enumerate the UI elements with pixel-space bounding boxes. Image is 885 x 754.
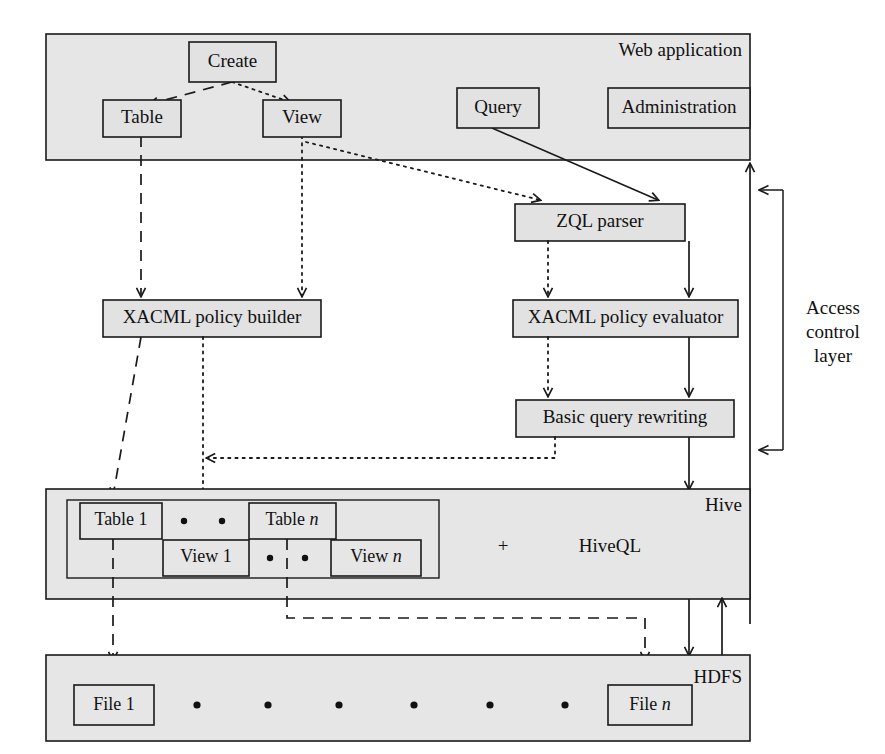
node-file-1[interactable]: File 1	[74, 685, 154, 725]
create-label: Create	[208, 50, 258, 71]
ellipsis-dot	[219, 518, 225, 524]
file-n-prefix: File	[629, 694, 662, 714]
file-n-suffix: n	[662, 694, 671, 714]
view-n-label: View n	[350, 546, 401, 566]
access-control-layer-line-2: control	[806, 321, 860, 342]
ellipsis-dot	[561, 701, 568, 708]
node-view-n[interactable]: View n	[331, 540, 421, 576]
xacml-policy-builder-label: XACML policy builder	[123, 306, 302, 327]
view-n-prefix: View	[350, 546, 392, 566]
basic-query-rewriting-label: Basic query rewriting	[543, 406, 708, 427]
ellipsis-dot	[486, 701, 493, 708]
table-1-label: Table 1	[94, 509, 147, 529]
table-n-suffix: n	[310, 509, 319, 529]
ellipsis-dot	[302, 555, 308, 561]
access-control-layer-line-1: Access	[806, 297, 860, 318]
node-create[interactable]: Create	[189, 42, 276, 82]
zql-parser-label: ZQL parser	[556, 210, 644, 231]
ellipsis-dot	[264, 701, 271, 708]
ellipsis-dot	[267, 555, 273, 561]
edge-rewriting-feedback-dotted	[207, 437, 555, 458]
node-xacml-policy-builder[interactable]: XACML policy builder	[103, 300, 321, 337]
hiveql-label: HiveQL	[579, 535, 641, 556]
edge-builder-to-table1	[113, 337, 141, 496]
hive-plus-symbol: +	[498, 535, 509, 556]
node-administration[interactable]: Administration	[608, 88, 750, 128]
administration-label: Administration	[621, 96, 737, 117]
query-label: Query	[474, 96, 522, 117]
node-query[interactable]: Query	[457, 88, 539, 128]
view-1-label: View 1	[180, 546, 231, 566]
hive-panel-label: Hive	[705, 494, 742, 515]
node-table-n[interactable]: Table n	[249, 503, 336, 539]
node-file-n[interactable]: File n	[608, 685, 692, 725]
ellipsis-dot	[410, 701, 417, 708]
table-label: Table	[121, 106, 163, 127]
file-n-label: File n	[629, 694, 671, 714]
node-view[interactable]: View	[263, 100, 341, 137]
table-n-label: Table n	[265, 509, 318, 529]
web-application-panel-label: Web application	[618, 39, 742, 60]
node-zql-parser[interactable]: ZQL parser	[515, 204, 685, 241]
node-view-1[interactable]: View 1	[163, 540, 249, 576]
access-control-layer-bracket: Access control layer	[760, 190, 860, 450]
node-xacml-policy-evaluator[interactable]: XACML policy evaluator	[513, 300, 738, 337]
node-table[interactable]: Table	[103, 100, 181, 137]
node-table-1[interactable]: Table 1	[80, 503, 162, 539]
ellipsis-dot	[335, 701, 342, 708]
table-n-prefix: Table	[265, 509, 309, 529]
access-control-layer-line-3: layer	[814, 345, 853, 366]
xacml-policy-evaluator-label: XACML policy evaluator	[528, 306, 724, 327]
hdfs-panel-label: HDFS	[693, 666, 742, 687]
architecture-diagram: Web application Create Table View Query …	[0, 0, 885, 754]
node-basic-query-rewriting[interactable]: Basic query rewriting	[516, 400, 734, 437]
file-1-label: File 1	[93, 694, 135, 714]
view-label: View	[282, 106, 322, 127]
ellipsis-dot	[181, 518, 187, 524]
view-n-suffix: n	[393, 546, 402, 566]
ellipsis-dot	[193, 701, 200, 708]
diagram-root: Web application Create Table View Query …	[0, 0, 885, 754]
